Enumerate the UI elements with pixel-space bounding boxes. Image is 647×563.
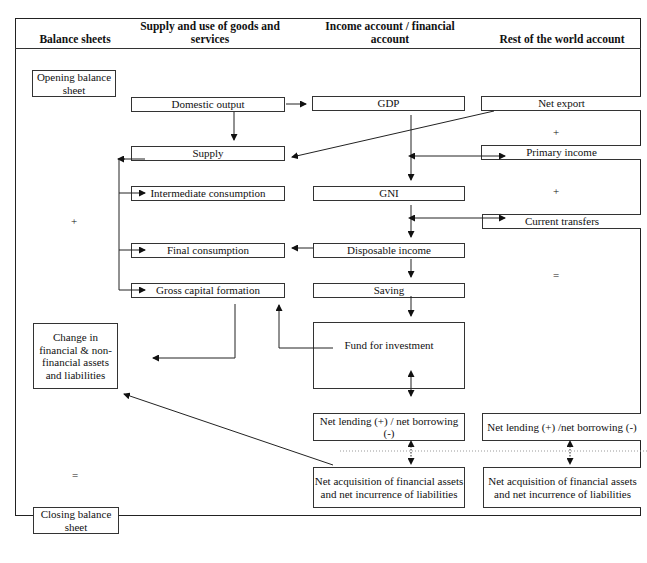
saving-box: Saving bbox=[313, 283, 465, 298]
row-net-acquisition-box: Net acquisition of financial assets and … bbox=[483, 467, 641, 508]
intermediate-consumption-box: Intermediate consumption bbox=[131, 186, 285, 201]
row-equals-sign: = bbox=[553, 269, 559, 281]
final-consumption-box: Final consumption bbox=[131, 243, 285, 258]
column-header-supply-use: Supply and use of goods and services bbox=[120, 20, 300, 46]
gdp-box: GDP bbox=[312, 96, 465, 111]
change-in-assets-box: Change in financial & non-financial asse… bbox=[33, 323, 118, 389]
row-net-lending-box: Net lending (+) /net borrowing (-) bbox=[482, 413, 641, 441]
closing-balance-sheet-box: Closing balance sheet bbox=[33, 507, 119, 534]
row-plus-sign-2: + bbox=[553, 185, 559, 197]
net-lending-box: Net lending (+) / net borrowing (-) bbox=[313, 413, 465, 441]
header-divider bbox=[15, 48, 641, 49]
net-export-box: Net export bbox=[481, 96, 641, 111]
column-header-income-financial: Income account / financial account bbox=[310, 20, 470, 46]
disposable-income-box: Disposable income bbox=[313, 243, 465, 258]
row-plus-sign-1: + bbox=[553, 126, 559, 138]
column-header-rest-of-world: Rest of the world account bbox=[482, 33, 642, 46]
gross-capital-formation-box: Gross capital formation bbox=[131, 283, 285, 298]
net-acquisition-box: Net acquisition of financial assets and … bbox=[313, 467, 465, 508]
supply-box: Supply bbox=[131, 146, 285, 161]
fund-for-investment-box: Fund for investment bbox=[313, 322, 465, 389]
gni-box: GNI bbox=[313, 186, 465, 201]
column-header-balance-sheets: Balance sheets bbox=[20, 33, 130, 46]
balance-equals-sign: = bbox=[72, 469, 78, 481]
current-transfers-box: Current transfers bbox=[482, 214, 641, 229]
opening-balance-sheet-box: Opening balance sheet bbox=[32, 70, 116, 97]
balance-plus-sign: + bbox=[71, 215, 77, 227]
primary-income-box: Primary income bbox=[481, 145, 641, 160]
domestic-output-box: Domestic output bbox=[131, 97, 285, 112]
